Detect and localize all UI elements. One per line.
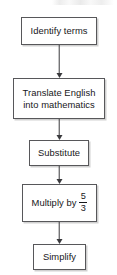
node-label: Substitute bbox=[38, 147, 80, 159]
arrow-stem bbox=[58, 222, 60, 239]
flowchart-canvas: Identify terms Translate English into ma… bbox=[0, 0, 117, 275]
flowchart-arrow-multiply-to-simplify bbox=[55, 222, 64, 244]
scan-artifact bbox=[52, 0, 114, 5]
fraction-numerator: 5 bbox=[80, 192, 87, 202]
node-label: Simplify bbox=[43, 251, 76, 263]
node-label: Identify terms bbox=[31, 25, 88, 37]
arrow-stem bbox=[58, 166, 60, 179]
flowchart-node-multiply-by-fraction[interactable]: Multiply by 5 3 bbox=[22, 184, 97, 222]
node-label: Translate English into mathematics bbox=[23, 87, 96, 110]
fraction-denominator: 3 bbox=[80, 204, 87, 214]
flowchart-node-identify-terms[interactable]: Identify terms bbox=[21, 17, 97, 45]
arrow-stem bbox=[58, 119, 60, 135]
fraction-five-thirds: 5 3 bbox=[79, 192, 87, 214]
flowchart-node-substitute[interactable]: Substitute bbox=[29, 140, 89, 166]
flowchart-arrow-identify-to-translate bbox=[55, 45, 64, 78]
flowchart-arrow-substitute-to-multiply bbox=[55, 166, 64, 184]
multiply-label-group: Multiply by 5 3 bbox=[32, 192, 88, 214]
arrow-stem bbox=[58, 45, 60, 73]
multiply-label-text: Multiply by bbox=[32, 197, 77, 209]
flowchart-node-translate-english[interactable]: Translate English into mathematics bbox=[13, 78, 105, 119]
flowchart-arrow-translate-to-substitute bbox=[55, 119, 64, 140]
flowchart-node-simplify[interactable]: Simplify bbox=[33, 244, 86, 270]
